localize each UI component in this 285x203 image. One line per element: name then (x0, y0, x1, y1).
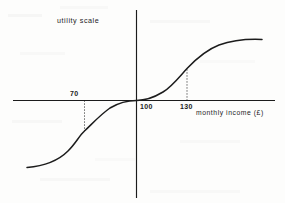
utility-function-figure: utility scale monthly income (£) 70 100 … (0, 0, 285, 203)
x-tick-label-70: 70 (70, 90, 78, 97)
x-tick-label-130: 130 (180, 103, 193, 110)
plot-area (0, 0, 285, 203)
y-axis-title: utility scale (57, 17, 99, 24)
x-tick-label-100: 100 (140, 103, 153, 110)
x-axis-title: monthly income (£) (196, 110, 264, 117)
